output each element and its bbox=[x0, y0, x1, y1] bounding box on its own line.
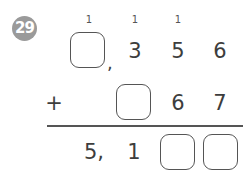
carry-mark: 1 bbox=[83, 14, 95, 25]
digit-tens-top: 5 bbox=[168, 39, 188, 63]
answer-box-hundreds-middle[interactable] bbox=[116, 84, 151, 120]
plus-operator: + bbox=[44, 91, 64, 115]
sum-rule bbox=[47, 125, 243, 127]
digit-ones-middle: 7 bbox=[210, 91, 230, 115]
comma-separator: , bbox=[107, 52, 113, 73]
result-thousands: 5, bbox=[80, 140, 108, 164]
digit-hundreds-top: 3 bbox=[125, 39, 145, 63]
answer-box-thousands-top[interactable] bbox=[70, 32, 105, 68]
digit-tens-middle: 6 bbox=[168, 91, 188, 115]
result-hundreds: 1 bbox=[124, 140, 144, 164]
answer-box-ones-result[interactable] bbox=[203, 134, 238, 170]
digit-ones-top: 6 bbox=[210, 39, 230, 63]
carry-mark: 1 bbox=[129, 14, 141, 25]
carry-mark: 1 bbox=[172, 14, 184, 25]
answer-box-tens-result[interactable] bbox=[160, 134, 195, 170]
problem-number-badge: 29 bbox=[12, 16, 37, 41]
